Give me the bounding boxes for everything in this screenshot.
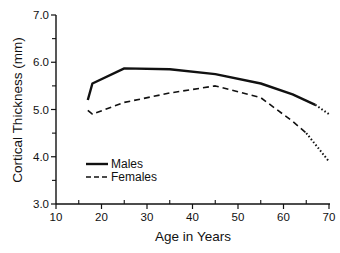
x-tick-label: 60 [277,211,290,223]
series-males [88,68,315,104]
legend-label-females: Females [111,170,157,184]
axes: 3.04.05.06.07.0 10203040506070 [33,9,335,223]
x-tick-label: 70 [323,211,336,223]
x-tick-label: 30 [141,211,154,223]
legend-label-males: Males [111,157,143,171]
y-tick-label: 6.0 [33,56,49,68]
legend: Males Females [86,157,157,184]
x-axis-title: Age in Years [155,229,231,244]
series-males-extrapolated [315,105,329,114]
y-axis-title: Cortical Thickness (mm) [10,37,25,182]
series-females-extrapolated [306,133,329,161]
y-tick-label: 3.0 [33,198,49,210]
x-tick-label: 50 [232,211,245,223]
y-tick-label: 4.0 [33,151,49,163]
x-tick-label: 10 [50,211,63,223]
y-tick-label: 7.0 [33,9,49,21]
series-lines [88,68,329,161]
x-tick-label: 20 [95,211,108,223]
series-females [88,86,306,133]
chart-canvas: 3.04.05.06.07.0 10203040506070 Cortical … [0,0,340,253]
y-ticks: 3.04.05.06.07.0 [33,9,56,210]
x-tick-label: 40 [186,211,199,223]
y-tick-label: 5.0 [33,104,49,116]
